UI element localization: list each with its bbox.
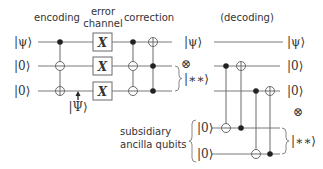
stage-label-encoding: encoding — [34, 12, 80, 23]
stage-label-error: error — [91, 6, 116, 17]
decode-cnot-ancilla1-to-row2 — [237, 62, 246, 131]
input-label-zero-1: |0⟩ — [14, 59, 30, 73]
decode-cnot-ancilla2-to-row3 — [266, 87, 275, 157]
input-label-zero-2: |0⟩ — [14, 84, 30, 98]
error-x-gate-2: X — [93, 57, 112, 75]
svg-text:X: X — [97, 36, 108, 50]
encoded-state-arrow — [76, 91, 81, 100]
right-output-psi: |ψ⟩ — [287, 35, 305, 49]
quantum-circuit-diagram: encoding error channel correction (decod… — [0, 0, 323, 169]
right-output-junk: |∗∗⟩ — [291, 134, 316, 148]
svg-text:X: X — [97, 60, 108, 74]
left-output-tensor: ⊗ — [181, 57, 191, 71]
svg-text:X: X — [97, 85, 108, 99]
right-output-zero-2: |0⟩ — [287, 84, 303, 98]
stage-label-correction: correction — [124, 12, 174, 23]
right-output-zero-1: |0⟩ — [287, 59, 303, 73]
left-output-psi: |ψ⟩ — [184, 35, 202, 49]
decode-cnot-row3-to-ancilla2 — [252, 88, 261, 158]
left-output-junk: |∗∗⟩ — [184, 72, 209, 86]
correction-cnot-gate — [129, 39, 138, 95]
stage-label-decoding: (decoding) — [220, 12, 274, 23]
error-x-gate-3: X — [93, 82, 112, 100]
ancilla-brace — [189, 120, 196, 162]
ancilla-input-zero-2: |0⟩ — [197, 147, 213, 161]
decode-cnot-row2-to-ancilla1 — [222, 63, 231, 132]
right-output-brace — [282, 128, 289, 154]
input-label-psi: |ψ⟩ — [14, 35, 32, 49]
stage-label-channel: channel — [83, 18, 123, 29]
error-x-gate-1: X — [93, 33, 112, 51]
ancilla-label-line2: ancilla qubits — [120, 139, 187, 150]
right-output-tensor: ⊗ — [293, 105, 303, 119]
encoding-cnot-gate — [56, 39, 65, 95]
ancilla-input-zero-1: |0⟩ — [197, 121, 213, 135]
encoded-state-label: |Ψ⟩ — [68, 100, 87, 114]
ancilla-label-line1: subsidiary — [120, 126, 171, 137]
